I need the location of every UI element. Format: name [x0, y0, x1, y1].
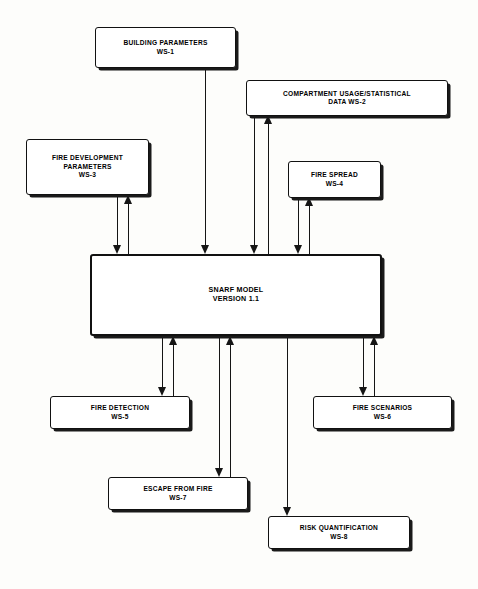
- connector-ws7-to-snarf-arrow: [226, 336, 234, 345]
- connector-snarf-to-ws6-line: [363, 336, 365, 387]
- node-label-primary: BUILDING PARAMETERS: [123, 39, 207, 47]
- diagram-canvas: BUILDING PARAMETERS WS-1 COMPARTMENT USA…: [0, 0, 478, 589]
- connector-ws5-to-snarf-line: [173, 345, 175, 396]
- node-label-secondary: WS-6: [374, 413, 391, 421]
- node-label-primary: FIRE DEVELOPMENT: [52, 154, 123, 162]
- connector-snarf-to-ws7-line: [219, 336, 221, 468]
- node-label-secondary: WS-1: [157, 48, 174, 56]
- connector-ws7-to-snarf-line: [230, 345, 232, 477]
- connector-ws1-to-snarf-line: [205, 68, 207, 245]
- connector-ws5-to-snarf-arrow: [169, 336, 177, 345]
- connector-ws4-to-snarf-line: [298, 197, 300, 245]
- connector-snarf-to-ws2-arrow: [264, 115, 272, 124]
- connector-snarf-to-ws8-arrow: [283, 507, 291, 516]
- node-label-secondary: WS-8: [330, 533, 347, 541]
- node-label-tertiary: WS-3: [79, 171, 96, 179]
- node-label-secondary: VERSION 1.1: [213, 295, 260, 304]
- node-label-primary: RISK QUANTIFICATION: [300, 524, 378, 532]
- connector-snarf-to-ws4-arrow: [305, 197, 313, 206]
- connector-ws2-to-snarf-arrow: [250, 245, 258, 254]
- connector-ws6-to-snarf-arrow: [370, 336, 378, 345]
- connector-snarf-to-ws7-arrow: [215, 468, 223, 477]
- node-label-primary: FIRE SPREAD: [311, 171, 358, 179]
- connector-snarf-to-ws3-arrow: [124, 195, 132, 204]
- connector-ws3-to-snarf-line: [117, 195, 119, 245]
- node-escape-from-fire[interactable]: ESCAPE FROM FIRE WS-7: [108, 477, 248, 510]
- connector-snarf-to-ws5-arrow: [158, 387, 166, 396]
- node-label-secondary: WS-7: [169, 494, 186, 502]
- connector-ws4-to-snarf-arrow: [294, 245, 302, 254]
- node-label-primary: FIRE DETECTION: [91, 404, 149, 412]
- node-fire-scenarios[interactable]: FIRE SCENARIOS WS-6: [313, 396, 452, 429]
- node-label-secondary: PARAMETERS: [63, 163, 111, 171]
- node-label-primary: SNARF MODEL: [209, 286, 264, 295]
- connector-snarf-to-ws8-line: [287, 336, 289, 507]
- connector-snarf-to-ws3-line: [128, 204, 130, 254]
- node-label-secondary: WS-4: [326, 180, 343, 188]
- node-fire-development-parameters[interactable]: FIRE DEVELOPMENT PARAMETERS WS-3: [26, 139, 149, 195]
- node-snarf-model[interactable]: SNARF MODEL VERSION 1.1: [90, 254, 382, 336]
- connector-ws3-to-snarf-arrow: [113, 245, 121, 254]
- node-label-primary: ESCAPE FROM FIRE: [143, 485, 212, 493]
- node-fire-spread[interactable]: FIRE SPREAD WS-4: [288, 161, 381, 198]
- node-label-secondary: WS-5: [111, 413, 128, 421]
- connector-ws1-to-snarf-arrow: [201, 245, 209, 254]
- node-building-parameters[interactable]: BUILDING PARAMETERS WS-1: [95, 27, 236, 68]
- connector-ws2-to-snarf-line: [254, 115, 256, 245]
- connector-snarf-to-ws6-arrow: [359, 387, 367, 396]
- connector-snarf-to-ws2-line: [268, 124, 270, 254]
- connector-snarf-to-ws4-line: [309, 206, 311, 254]
- node-label-primary: FIRE SCENARIOS: [353, 404, 413, 412]
- node-fire-detection[interactable]: FIRE DETECTION WS-5: [50, 396, 190, 429]
- connector-snarf-to-ws5-line: [162, 336, 164, 387]
- node-risk-quantification[interactable]: RISK QUANTIFICATION WS-8: [268, 516, 410, 549]
- node-label-secondary: DATA WS-2: [328, 98, 366, 106]
- node-label-primary: COMPARTMENT USAGE/STATISTICAL: [283, 90, 411, 98]
- node-compartment-usage-statistical-data[interactable]: COMPARTMENT USAGE/STATISTICAL DATA WS-2: [246, 80, 448, 116]
- connector-ws6-to-snarf-line: [374, 345, 376, 396]
